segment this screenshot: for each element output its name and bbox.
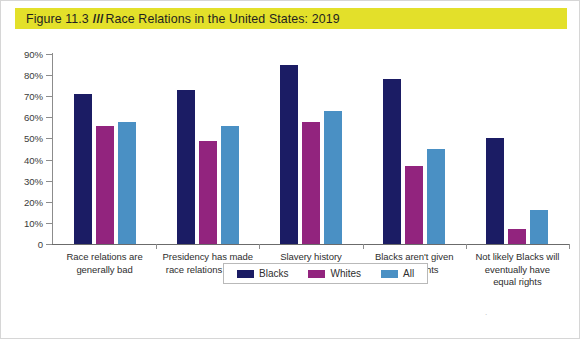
bar-group [53,54,156,244]
legend-label: Whites [330,268,361,279]
bar-blacks [486,138,504,244]
y-axis-tick [46,117,52,118]
bar-chart: 010%20%30%40%50%60%70%80%90% Race relati… [1,37,580,339]
bar-group [259,54,362,244]
category-label: Not likely Blacks willeventually haveequ… [466,251,569,289]
y-axis-tick-label: 90% [1,49,43,60]
bar-blacks [280,65,298,244]
y-axis-tick-label: 30% [1,175,43,186]
bar-blacks [74,94,92,244]
bar-group [466,54,569,244]
y-axis-tick [46,202,52,203]
x-axis-group-separator [466,244,467,249]
bar-group [363,54,466,244]
x-axis-group-separator [259,244,260,249]
bar-whites [96,126,114,244]
y-axis-tick-label: 20% [1,196,43,207]
bar-blacks [177,90,195,244]
figure-number: Figure 11.3 [26,12,89,26]
x-axis-group-separator [569,244,570,249]
y-axis-tick-label: 60% [1,112,43,123]
y-axis-tick [46,223,52,224]
figure-title: Figure 11.3///Race Relations in the Unit… [26,12,340,26]
y-axis-tick [46,75,52,76]
bar-all [118,122,136,244]
legend-swatch-icon [381,270,398,278]
y-axis-tick-label: 40% [1,154,43,165]
y-axis-tick [46,54,52,55]
figure-title-text: Race Relations in the United States: 201… [106,12,340,26]
y-axis-tick-label: 10% [1,217,43,228]
bar-whites [405,166,423,244]
bar-blacks [383,79,401,244]
legend-label: All [403,268,414,279]
legend-item-whites[interactable]: Whites [308,268,361,279]
stray-mark: . [485,308,487,317]
bar-all [221,126,239,244]
y-axis-tick-label: 70% [1,91,43,102]
y-axis-tick [46,181,52,182]
legend-swatch-icon [308,270,325,278]
chart-legend: BlacksWhitesAll [223,263,428,284]
y-axis-tick-label: 80% [1,70,43,81]
y-axis-tick [46,138,52,139]
legend-item-blacks[interactable]: Blacks [237,268,288,279]
y-axis-tick [46,160,52,161]
y-axis-tick-label: 0 [1,239,43,250]
x-axis-line [52,244,569,245]
y-axis-tick [46,96,52,97]
bar-all [530,210,548,244]
bar-whites [508,229,526,244]
legend-swatch-icon [237,270,254,278]
bar-all [427,149,445,244]
bar-group [156,54,259,244]
title-separator: /// [89,12,106,26]
legend-item-all[interactable]: All [381,268,414,279]
figure-title-banner: Figure 11.3///Race Relations in the Unit… [15,8,567,29]
figure-container: Figure 11.3///Race Relations in the Unit… [0,0,580,339]
bar-whites [302,122,320,244]
y-axis-tick [46,244,52,245]
legend-label: Blacks [259,268,288,279]
bar-all [324,111,342,244]
bar-whites [199,141,217,244]
y-axis-tick-label: 50% [1,133,43,144]
category-label: Race relations aregenerally bad [53,251,156,276]
x-axis-group-separator [363,244,364,249]
x-axis-group-separator [156,244,157,249]
